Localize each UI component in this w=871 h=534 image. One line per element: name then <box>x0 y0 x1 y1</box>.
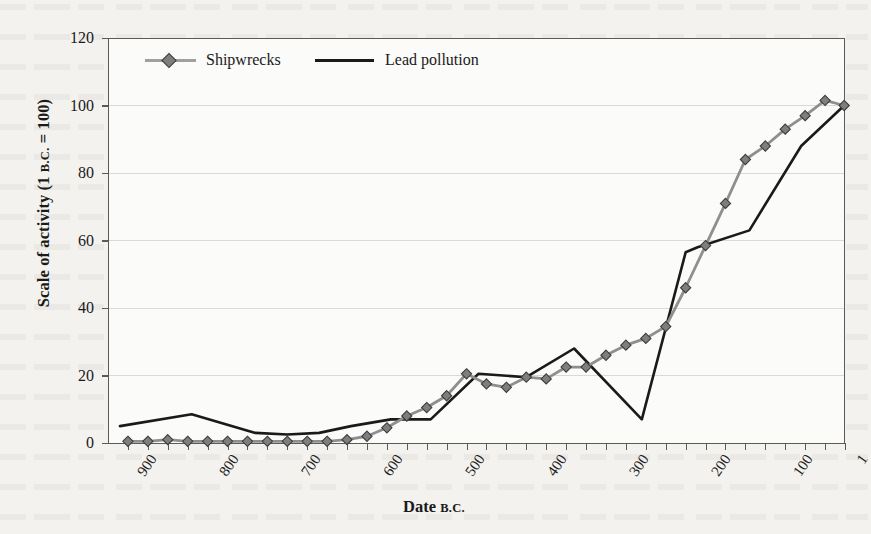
y-axis-title: Scale of activity (1 B.C. = 100) <box>34 53 54 353</box>
y-tick-label-20: 20 <box>42 368 94 384</box>
legend-label-lead-pollution[interactable]: Lead pollution <box>385 51 479 69</box>
x-axis-title: Date B.C. <box>0 497 868 517</box>
y-tick-marks <box>102 39 108 444</box>
y-axis-title-main: Scale of activity (1 <box>34 172 53 307</box>
y-tick-label-0: 0 <box>42 435 94 451</box>
y-axis-title-smallcaps: B.C. <box>38 147 52 172</box>
y-axis-title-tail: = 100) <box>34 99 53 148</box>
legend-label-shipwrecks[interactable]: Shipwrecks <box>206 51 281 69</box>
x-axis-title-smallcaps: B.C. <box>440 501 465 515</box>
x-axis-title-main: Date <box>403 497 440 516</box>
y-tick-label-120: 120 <box>42 30 94 46</box>
